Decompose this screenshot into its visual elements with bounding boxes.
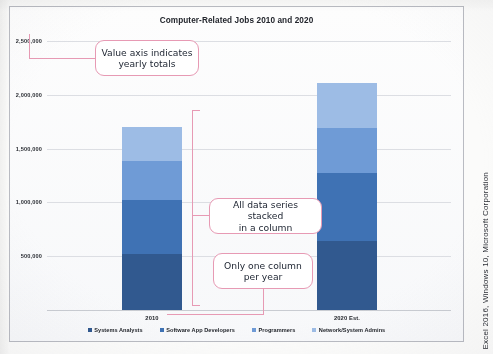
legend-item[interactable]: Software App Developers (160, 327, 235, 333)
figure-credit-text: Excel 2016, Windows 10, Microsoft Corpor… (481, 172, 490, 350)
chart-gridline: 1,500,000 (47, 149, 451, 150)
callout-stacked-series-bracket-bottom (192, 305, 200, 306)
x-axis-category-label: 2020 Est. (287, 315, 407, 321)
legend-item-label: Programmers (258, 327, 295, 333)
legend-item-label: Systems Analysts (94, 327, 142, 333)
callout-one-column-leader-horizontal (167, 314, 264, 315)
chart-figure-frame: Computer-Related Jobs 2010 and 2020 2,50… (9, 6, 464, 342)
legend-item-label: Network/System Admins (319, 327, 385, 333)
chart-segment[interactable] (317, 241, 377, 310)
callout-value-axis: Value axis indicates yearly totals (95, 40, 199, 76)
legend-item[interactable]: Network/System Admins (312, 327, 385, 333)
chart-legend: Systems AnalystsSoftware App DevelopersP… (10, 327, 463, 333)
chart-segment[interactable] (317, 83, 377, 128)
chart-column-2020-est[interactable]: 2020 Est. (317, 41, 377, 310)
y-axis-tick-label: 1,500,000 (16, 146, 42, 152)
callout-value-axis-leader-horizontal (29, 58, 96, 59)
chart-gridline: 2,000,000 (47, 95, 451, 96)
chart-segment[interactable] (122, 161, 182, 200)
legend-swatch-icon (252, 328, 256, 332)
chart-segment[interactable] (122, 200, 182, 254)
chart-column-2010[interactable]: 2010 (122, 41, 182, 310)
callout-stacked-series-bracket (192, 110, 193, 216)
legend-swatch-icon (160, 328, 164, 332)
chart-title: Computer-Related Jobs 2010 and 2020 (10, 16, 463, 25)
callout-one-column-leader-vertical (263, 288, 264, 315)
chart-segment[interactable] (317, 128, 377, 173)
chart-gridline (47, 310, 451, 311)
y-axis-tick-label: 2,000,000 (16, 92, 42, 98)
y-axis-tick-label: 500,000 (21, 253, 42, 259)
chart-segment[interactable] (122, 254, 182, 310)
chart-segment[interactable] (317, 173, 377, 240)
x-axis-category-label: 2010 (92, 315, 212, 321)
callout-stacked-series-leader (192, 215, 210, 216)
figure-credit: Excel 2016, Windows 10, Microsoft Corpor… (478, 50, 492, 350)
scanned-page: Computer-Related Jobs 2010 and 2020 2,50… (0, 0, 493, 354)
callout-stacked-series-bracket-lower (192, 215, 193, 305)
legend-item[interactable]: Systems Analysts (88, 327, 143, 333)
legend-item-label: Software App Developers (166, 327, 235, 333)
legend-swatch-icon (312, 328, 316, 332)
callout-stacked-series: All data series stacked in a column (209, 198, 322, 234)
callout-one-column: Only one column per year (213, 253, 313, 289)
legend-swatch-icon (88, 328, 92, 332)
legend-item[interactable]: Programmers (252, 327, 295, 333)
callout-stacked-series-bracket-top (192, 110, 200, 111)
y-axis-tick-label: 1,000,000 (16, 199, 42, 205)
callout-value-axis-leader-vertical (29, 34, 30, 59)
chart-segment[interactable] (122, 127, 182, 161)
